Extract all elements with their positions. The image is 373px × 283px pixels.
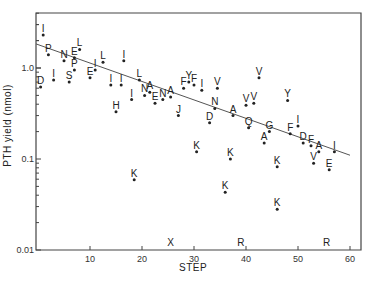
svg-text:I: I	[120, 73, 123, 84]
data-point: I	[130, 88, 133, 102]
svg-text:V: V	[250, 91, 257, 102]
svg-text:F: F	[287, 122, 293, 133]
svg-text:V: V	[310, 151, 317, 162]
x-tick-label: 40	[241, 254, 251, 264]
data-point: K	[222, 180, 229, 194]
svg-text:L: L	[77, 37, 83, 48]
svg-text:D: D	[300, 131, 307, 142]
svg-text:H: H	[112, 100, 119, 111]
data-point: K	[274, 197, 281, 211]
data-point: K	[274, 155, 281, 169]
data-point: D	[206, 111, 213, 125]
x-tick-label: 60	[345, 254, 355, 264]
svg-text:K: K	[274, 155, 281, 166]
svg-text:E: E	[326, 158, 333, 169]
svg-text:E: E	[87, 66, 94, 77]
axes-frame	[36, 13, 361, 250]
data-point: Q	[245, 116, 253, 130]
y-tick-label: 0.01	[16, 245, 34, 255]
svg-text:I: I	[130, 88, 133, 99]
svg-text:A: A	[167, 85, 174, 96]
below-axis-label: R	[237, 237, 244, 248]
data-point: I	[122, 49, 125, 63]
svg-text:D: D	[206, 111, 213, 122]
svg-text:A: A	[146, 80, 153, 91]
svg-text:F: F	[191, 73, 197, 84]
data-points: IDPINSEPLEILIHIIIKLNAENAJFYFKIDNVKKAVQVV…	[37, 23, 336, 248]
svg-text:Q: Q	[245, 116, 253, 127]
svg-text:A: A	[230, 104, 237, 115]
svg-text:I: I	[333, 140, 336, 151]
data-point: V	[250, 91, 257, 105]
data-point: F	[308, 134, 314, 148]
data-point: J	[176, 104, 181, 118]
svg-text:N: N	[159, 88, 166, 99]
scatter-chart: 1020304050601.00.10.01 IDPINSEPLEILIHIII…	[0, 0, 373, 283]
data-point: H	[112, 100, 119, 114]
svg-text:G: G	[266, 120, 274, 131]
svg-text:K: K	[131, 168, 138, 179]
svg-text:E: E	[152, 91, 159, 102]
svg-text:V: V	[243, 93, 250, 104]
data-point: D	[37, 75, 44, 89]
svg-text:K: K	[274, 197, 281, 208]
data-point: I	[94, 58, 97, 72]
svg-text:F: F	[308, 134, 314, 145]
svg-text:K: K	[227, 147, 234, 158]
svg-text:K: K	[193, 140, 200, 151]
svg-text:I: I	[297, 114, 300, 125]
svg-text:I: I	[122, 49, 125, 60]
svg-text:S: S	[66, 70, 73, 81]
svg-text:I: I	[200, 78, 203, 89]
y-tick-label: 1.0	[21, 63, 34, 73]
data-point: V	[256, 66, 263, 80]
data-point: L	[100, 50, 106, 64]
y-axis-title: PTH yield (nmol)	[2, 84, 13, 166]
svg-text:J: J	[176, 104, 181, 115]
data-point: F	[191, 73, 197, 87]
data-point: I	[120, 73, 123, 87]
data-point: V	[214, 76, 221, 90]
data-point: I	[200, 78, 203, 92]
data-point: K	[193, 140, 200, 154]
data-point: I	[109, 73, 112, 87]
data-point: E	[152, 91, 159, 105]
data-point: A	[261, 131, 268, 145]
data-point: I	[297, 114, 300, 128]
svg-text:A: A	[261, 131, 268, 142]
svg-text:L: L	[137, 68, 143, 79]
x-tick-label: 10	[85, 254, 95, 264]
svg-text:P: P	[45, 43, 52, 54]
data-point: E	[326, 158, 333, 172]
svg-text:I: I	[109, 73, 112, 84]
below-axis-label: R	[323, 237, 330, 248]
data-point: D	[300, 131, 307, 145]
data-point: V	[243, 93, 250, 107]
below-axis-label: X	[167, 237, 174, 248]
svg-text:Y: Y	[284, 88, 291, 99]
svg-text:A: A	[315, 140, 322, 151]
svg-text:I: I	[52, 68, 55, 79]
svg-text:K: K	[222, 180, 229, 191]
data-point: Y	[284, 88, 291, 102]
svg-text:L: L	[100, 50, 106, 61]
y-tick-label: 0.1	[21, 154, 34, 164]
data-point: N	[159, 88, 166, 102]
data-point: V	[310, 151, 317, 165]
data-point: I	[333, 140, 336, 154]
data-point: K	[131, 168, 138, 182]
data-point: N	[60, 49, 67, 63]
data-point: I	[52, 68, 55, 82]
svg-text:N: N	[60, 49, 67, 60]
svg-text:V: V	[256, 66, 263, 77]
svg-text:I: I	[94, 58, 97, 69]
svg-text:D: D	[37, 75, 44, 86]
x-tick-label: 50	[293, 254, 303, 264]
data-point: E	[87, 66, 94, 80]
data-point: I	[42, 23, 45, 37]
x-axis-title: STEP	[179, 262, 207, 273]
data-point: S	[66, 70, 73, 84]
data-point: K	[227, 147, 234, 161]
svg-text:N: N	[211, 96, 218, 107]
svg-text:V: V	[214, 76, 221, 87]
